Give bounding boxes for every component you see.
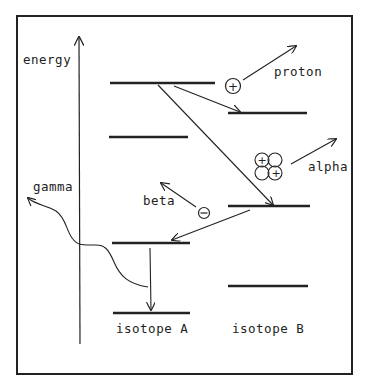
isotope-a-label: isotope A xyxy=(116,321,188,336)
proton-label: proton xyxy=(274,64,322,79)
isotope-b-label: isotope B xyxy=(232,321,304,336)
beta-label: beta xyxy=(143,193,175,208)
energy-axis-arrow xyxy=(79,37,80,344)
svg-text:+: + xyxy=(257,154,266,167)
alpha-label: alpha xyxy=(308,159,348,174)
gamma-label: gamma xyxy=(33,179,73,194)
transition-b-mid-to-a-third xyxy=(172,210,250,240)
transition-a-top-to-b-mid xyxy=(158,85,273,205)
nuclear-decay-diagram: energy isotope A isotope B + proton + + … xyxy=(0,0,368,386)
svg-text:+: + xyxy=(228,80,238,94)
svg-text:+: + xyxy=(271,167,280,180)
proton-particle-icon: + xyxy=(226,79,241,94)
gamma-transition-arrow xyxy=(150,248,151,310)
beta-particle-icon xyxy=(199,208,210,219)
energy-axis-label: energy xyxy=(23,52,71,67)
alpha-particle-icon: + + xyxy=(255,153,282,180)
isotope-b-levels xyxy=(228,113,310,286)
